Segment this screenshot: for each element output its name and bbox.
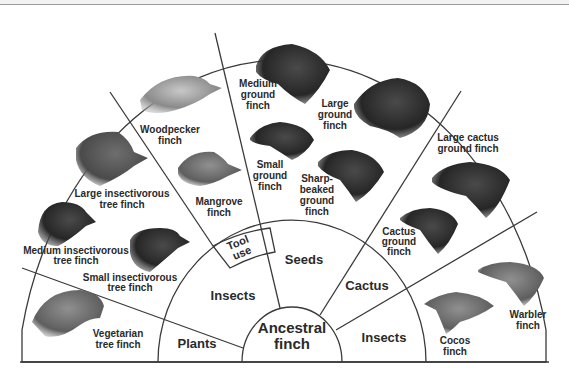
- svg-text:Large insectivoroustree finch: Large insectivoroustree finch: [74, 188, 169, 210]
- svg-text:Large cactusground finch: Large cactusground finch: [437, 132, 499, 154]
- svg-text:Ancestralfinch: Ancestralfinch: [258, 319, 326, 352]
- bird-large-ground-finch: [354, 78, 430, 138]
- label-cactus-ground-finch: Cactusgroundfinch: [382, 226, 416, 257]
- svg-text:Vegetariantree finch: Vegetariantree finch: [93, 328, 144, 350]
- svg-text:Smallgroundfinch: Smallgroundfinch: [253, 159, 287, 192]
- label-small-ground-finch: Smallgroundfinch: [253, 159, 287, 192]
- ancestral-finch-label: Ancestralfinch: [258, 319, 326, 352]
- label-large-ground-finch: Largegroundfinch: [318, 98, 352, 131]
- diet-label-insects-right: Insects: [362, 330, 407, 345]
- bird-small-insectivorous-tree-finch: [130, 228, 190, 272]
- bird-small-ground-finch: [250, 122, 314, 160]
- bird-large-cactus-ground-finch: [432, 162, 510, 218]
- svg-text:Small insectivoroustree finch: Small insectivoroustree finch: [83, 272, 178, 293]
- svg-text:Mediumgroundfinch: Mediumgroundfinch: [239, 78, 277, 111]
- label-vegetarian-tree-finch: Vegetariantree finch: [93, 328, 144, 350]
- label-sharp-beaked-ground-finch: Sharp-beakedgroundfinch: [300, 173, 334, 217]
- svg-text:Largegroundfinch: Largegroundfinch: [318, 98, 352, 131]
- bird-cocos-finch: [424, 292, 494, 334]
- svg-text:Cactusgroundfinch: Cactusgroundfinch: [382, 226, 416, 257]
- label-mangrove-finch: Mangrovefinch: [195, 196, 243, 218]
- diet-label-insects-left: Insects: [211, 288, 256, 303]
- bird-mangrove-finch: [178, 152, 242, 186]
- label-large-insectivorous-tree-finch: Large insectivoroustree finch: [74, 188, 169, 210]
- diet-label-cactus: Cactus: [345, 278, 388, 293]
- diet-label-seeds: Seeds: [285, 252, 323, 267]
- bird-woodpecker-finch: [140, 76, 222, 113]
- label-small-insectivorous-tree-finch: Small insectivoroustree finch: [83, 272, 178, 293]
- label-woodpecker-finch: Woodpeckerfinch: [140, 124, 200, 146]
- bird-medium-insectivorous-tree-finch: [38, 202, 96, 246]
- label-cocos-finch: Cocosfinch: [440, 335, 471, 357]
- diet-label-plants: Plants: [177, 336, 216, 351]
- bird-warbler-finch: [478, 262, 544, 306]
- bird-large-insectivorous-tree-finch: [76, 132, 148, 186]
- svg-text:Mangrovefinch: Mangrovefinch: [195, 196, 243, 218]
- svg-text:Woodpeckerfinch: Woodpeckerfinch: [140, 124, 200, 146]
- label-medium-ground-finch: Mediumgroundfinch: [239, 78, 277, 111]
- svg-text:Warblerfinch: Warblerfinch: [510, 309, 547, 331]
- svg-text:Sharp-beakedgroundfinch: Sharp-beakedgroundfinch: [300, 173, 334, 217]
- svg-text:Cocosfinch: Cocosfinch: [440, 335, 471, 357]
- label-warbler-finch: Warblerfinch: [510, 309, 547, 331]
- finch-radiation-diagram: Ancestralfinch Plants Insects Tooluse Se…: [0, 0, 569, 376]
- label-large-cactus-ground-finch: Large cactusground finch: [437, 132, 499, 154]
